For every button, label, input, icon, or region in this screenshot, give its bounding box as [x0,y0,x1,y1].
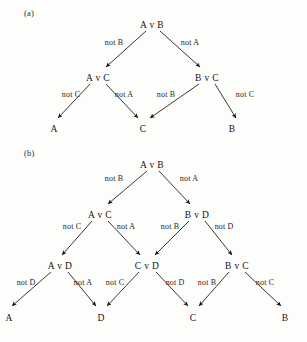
edge-label-b-l2r-l3r: not D [215,222,234,231]
node-b-root: A v B [140,160,164,170]
edge-label-b-l3c-leaf2: not C [106,278,124,287]
node-b-l2-left: A v C [88,210,112,220]
edge-label-b-root-right: not A [180,174,198,183]
tree-edges-layer [0,0,307,342]
node-b-leaf-c: C [190,313,196,323]
node-b-l3-right: B v C [225,261,249,271]
edge-label-b-l2r-l3c: not B [161,222,179,231]
edge-label-b-l3c-leaf3: not D [166,278,185,287]
edge-label-a-l2l-leaf2: not A [115,90,133,99]
edge-label-a-root-left: not B [105,38,123,47]
node-a-l2-right: B v C [195,73,219,83]
node-a-leaf-b: B [229,124,235,134]
edge-label-b-l2l-l3l: not C [63,222,81,231]
node-a-leaf-a: A [51,124,58,134]
edge-label-a-l2l-leaf1: not C [62,90,80,99]
tree-edge-panel-a-1 [160,31,200,67]
node-a-leaf-c: C [140,124,146,134]
node-b-l3-center: C v D [135,261,159,271]
edge-label-a-root-right: not A [181,38,199,47]
resolution-tree-figure: (a) A v B A v C B v C A C B not B not A … [0,0,307,342]
node-a-root: A v B [140,20,164,30]
node-b-l3-left: A v D [48,261,72,271]
edge-label-b-l3l-leaf2: not A [74,278,92,287]
panel-label-b: (b) [24,148,35,158]
edge-label-b-l3r-leaf3: not B [198,278,216,287]
tree-edge-panel-a-0 [106,31,146,67]
panel-label-a: (a) [24,8,34,18]
edge-label-b-l2l-l3c: not A [117,222,135,231]
edge-label-b-root-left: not B [105,174,123,183]
edge-label-b-l3l-leaf1: not D [17,278,36,287]
edge-label-b-l3r-leaf4: not C [256,278,274,287]
node-b-leaf-a: A [6,313,13,323]
tree-edge-panel-a-5 [215,84,236,118]
edge-label-a-l2r-leaf3: not C [236,90,254,99]
node-b-leaf-b: B [282,313,288,323]
node-b-leaf-d: D [98,313,105,323]
node-b-l2-right: B v D [185,210,209,220]
edge-label-a-l2r-leaf2: not B [157,90,175,99]
node-a-l2-left: A v C [86,73,110,83]
